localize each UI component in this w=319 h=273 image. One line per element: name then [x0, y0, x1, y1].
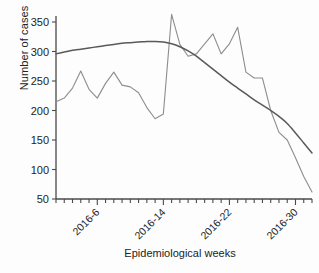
x-axis-tick-marks	[56, 199, 312, 205]
observed-line	[56, 14, 312, 192]
y-axis-tick-label: 250	[31, 75, 49, 87]
x-axis-tick-label-group: 2016-6	[70, 206, 102, 238]
y-axis-tick-label: 200	[31, 105, 49, 117]
x-axis-tick-label: 2016-6	[70, 206, 102, 238]
x-axis-tick-labels: 2016-62016-142016-222016-30	[70, 206, 300, 242]
chart-figure: Number of cases Epidemiological weeks 35…	[0, 0, 319, 273]
y-axis-tick-label: 150	[31, 134, 49, 146]
x-axis-tick-label: 2016-14	[132, 206, 168, 242]
x-axis-tick-label: 2016-30	[264, 206, 300, 242]
line-chart-plot: 35030025020015010050 2016-62016-142016-2…	[0, 0, 319, 273]
x-axis-tick-label: 2016-22	[198, 206, 234, 242]
x-axis-tick-label-group: 2016-30	[264, 206, 300, 242]
x-axis-tick-label-group: 2016-14	[132, 206, 168, 242]
y-axis-tick-label: 300	[31, 46, 49, 58]
data-series-layer	[56, 14, 312, 192]
x-axis-tick-label-group: 2016-22	[198, 206, 234, 242]
y-axis-tick-label: 350	[31, 16, 49, 28]
trend-line	[56, 41, 312, 153]
y-axis-tick-label: 100	[31, 164, 49, 176]
y-axis-tick-labels: 35030025020015010050	[31, 16, 49, 205]
y-axis-tick-label: 50	[37, 193, 49, 205]
